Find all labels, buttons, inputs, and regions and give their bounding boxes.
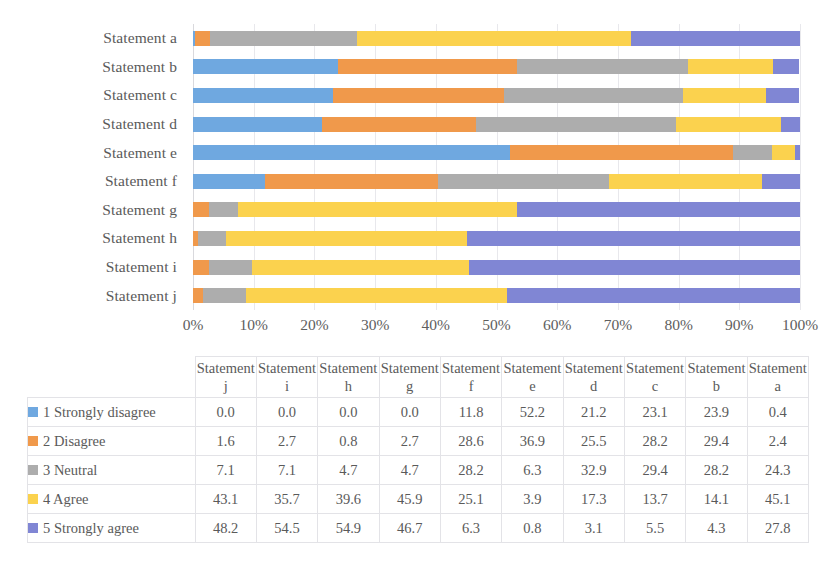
stacked-bar-chart: Statement aStatement bStatement cStateme… [0,0,832,348]
legend-label: 1 Strongly disagree [43,404,156,420]
table-cell: 27.8 [747,514,808,543]
bar-segment [517,202,800,217]
bar-series-container [193,24,800,310]
legend-color-swatch-icon [28,407,38,417]
bar-segment [198,231,227,246]
bar-row [193,81,800,110]
category-label: Statement g [40,196,185,225]
bar-segment [203,288,246,303]
bar-segment [507,288,800,303]
table-cell: 4.7 [318,456,379,485]
table-cell: 17.3 [563,485,624,514]
table-cell: 46.7 [379,514,440,543]
table-body: 1 Strongly disagree0.00.00.00.011.852.22… [28,398,809,543]
table-cell: 11.8 [440,398,501,427]
table-row: 1 Strongly disagree0.00.00.00.011.852.22… [28,398,809,427]
category-label: Statement a [40,24,185,53]
table-cell: 0.8 [502,514,563,543]
bar-segment [631,31,800,46]
axis-tick-label: 40% [422,316,450,334]
axis-tick-label: 100% [782,316,818,334]
table-column-header: Statement f [440,357,501,398]
category-label: Statement j [40,281,185,310]
table-cell: 4.7 [379,456,440,485]
axis-tick-label: 60% [543,316,571,334]
bar-segment [338,59,516,74]
category-label: Statement e [40,138,185,167]
legend-label: 2 Disagree [43,433,105,449]
table-cell: 45.1 [747,485,808,514]
table-column-header: Statement h [318,357,379,398]
table-cell: 0.0 [318,398,379,427]
axis-tick-label: 80% [664,316,692,334]
table-cell: 13.7 [624,485,685,514]
stacked-bar [193,59,800,74]
bar-segment [688,59,774,74]
table-cell: 3.1 [563,514,624,543]
stacked-bar [193,260,800,275]
stacked-bar [193,88,800,103]
table-cell: 32.9 [563,456,624,485]
table-cell: 29.4 [686,427,747,456]
category-label: Statement c [40,81,185,110]
bar-segment [193,260,209,275]
bar-segment [193,145,510,160]
table-row: 3 Neutral7.17.14.74.728.26.332.929.428.2… [28,456,809,485]
table-cell: 2.7 [256,427,317,456]
table-cell: 0.0 [256,398,317,427]
bar-segment [609,174,761,189]
stacked-bar [193,231,800,246]
table-row: 5 Strongly agree48.254.554.946.76.30.83.… [28,514,809,543]
bar-segment [766,88,799,103]
bar-segment [683,88,766,103]
axis-tick-label: 90% [725,316,753,334]
bar-segment [322,117,477,132]
bar-segment [469,260,800,275]
table-cell: 23.1 [624,398,685,427]
data-table: Statement jStatement iStatement hStateme… [27,356,809,543]
bar-segment [517,59,688,74]
table-cell: 28.2 [686,456,747,485]
table-header-row: Statement jStatement iStatement hStateme… [28,357,809,398]
stacked-bar [193,145,800,160]
legend-label: 4 Agree [43,491,89,507]
bar-row [193,281,800,310]
bar-segment [193,288,203,303]
table-cell: 3.9 [502,485,563,514]
category-label: Statement d [40,110,185,139]
stacked-bar [193,117,800,132]
table-cell: 0.0 [195,398,256,427]
bar-segment [476,117,676,132]
bar-segment [246,288,508,303]
bar-segment [193,88,333,103]
legend-row-header: 1 Strongly disagree [28,398,196,427]
bar-row [193,253,800,282]
bar-segment [676,117,781,132]
category-label: Statement h [40,224,185,253]
table-cell: 6.3 [440,514,501,543]
bar-segment [210,31,358,46]
legend-label: 3 Neutral [43,462,97,478]
bar-segment [773,59,799,74]
table-cell: 48.2 [195,514,256,543]
stacked-bar [193,174,800,189]
legend-color-swatch-icon [28,465,38,475]
bar-segment [467,231,800,246]
bar-segment [193,202,209,217]
bar-row [193,224,800,253]
bar-segment [238,202,517,217]
bar-segment [265,174,439,189]
table-cell: 39.6 [318,485,379,514]
table-cell: 1.6 [195,427,256,456]
chart-and-table-figure: Statement aStatement bStatement cStateme… [0,0,832,562]
table-cell: 28.6 [440,427,501,456]
table-cell: 28.2 [440,456,501,485]
axis-tick-label: 50% [482,316,510,334]
legend-row-header: 4 Agree [28,485,196,514]
table-column-header: Statement g [379,357,440,398]
table-cell: 2.4 [747,427,808,456]
table-cell: 36.9 [502,427,563,456]
table-column-header: Statement e [502,357,563,398]
axis-tick-label: 10% [239,316,267,334]
table-cell: 6.3 [502,456,563,485]
